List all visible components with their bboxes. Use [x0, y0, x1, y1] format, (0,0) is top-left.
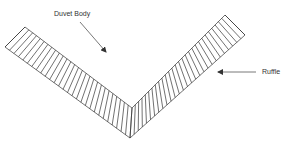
pleat-line — [202, 38, 217, 61]
pleat-line — [185, 55, 196, 79]
pleat-line — [112, 96, 117, 125]
pleat-line — [85, 79, 93, 105]
pleat-line — [175, 65, 183, 90]
pleat-line — [63, 65, 75, 90]
pleat-line — [149, 91, 151, 119]
pleat-line — [41, 50, 56, 73]
pleat-line — [159, 81, 163, 108]
pleat-line — [155, 85, 159, 113]
pleat-line — [121, 102, 124, 131]
pleat-line — [182, 58, 192, 83]
pleat-line — [126, 105, 129, 135]
pleat-line — [152, 88, 155, 116]
pleat-line — [134, 105, 135, 135]
pleat-line — [32, 44, 48, 66]
pleat-line — [205, 35, 220, 57]
pleat-line — [81, 76, 90, 102]
pleat-line — [117, 99, 121, 128]
duvet-ruffle-diagram — [0, 0, 291, 143]
pleat-line — [59, 62, 71, 86]
pleat-line — [179, 62, 188, 87]
pleat-line — [72, 70, 82, 95]
ruffle-band-right — [130, 15, 245, 138]
pleat-line — [50, 56, 64, 80]
ruffle-label: Ruffle — [262, 68, 280, 75]
pleat-line — [198, 42, 212, 65]
pleat-line — [192, 48, 204, 72]
pleat-line — [76, 73, 86, 99]
pleat-line — [130, 108, 132, 138]
duvet-body-label: Duvet Body — [54, 10, 90, 17]
pleat-line — [145, 95, 146, 124]
pleat-line — [68, 68, 79, 93]
pleat-line — [208, 32, 224, 54]
pleat-line — [54, 59, 67, 83]
pleat-line — [103, 91, 109, 119]
pleat-line — [188, 52, 199, 76]
ruffle-band-left — [5, 27, 132, 138]
pleat-line — [195, 45, 208, 68]
pleat-line — [45, 53, 59, 76]
pleat-line — [36, 47, 52, 70]
pleat-line — [162, 78, 167, 105]
duvet-body-arrow — [80, 22, 106, 52]
pleat-line — [108, 94, 113, 122]
